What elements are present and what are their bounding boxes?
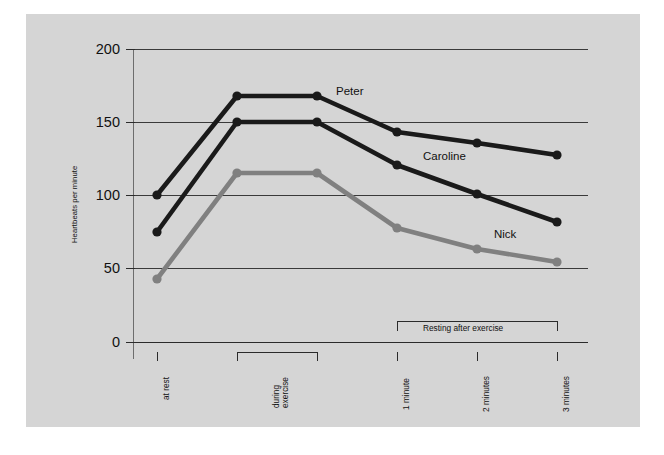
series-markers-nick bbox=[152, 168, 561, 283]
series-line-nick bbox=[157, 173, 557, 279]
series-label-peter: Peter bbox=[336, 85, 364, 97]
series-label-caroline: Caroline bbox=[423, 150, 466, 162]
series-line-caroline bbox=[157, 122, 557, 232]
series-label-nick: Nick bbox=[494, 228, 516, 240]
plot-area: 200 150 100 50 0 Heartbeats per minute a… bbox=[0, 0, 664, 455]
chart-root: 200 150 100 50 0 Heartbeats per minute a… bbox=[0, 0, 664, 455]
series-markers-caroline bbox=[152, 117, 561, 236]
series-lines bbox=[0, 0, 664, 455]
